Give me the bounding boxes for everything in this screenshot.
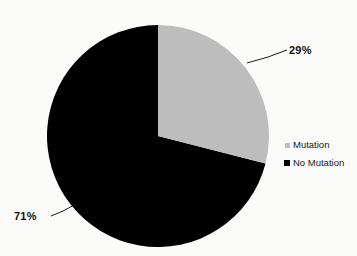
legend-swatch-no-mutation: [284, 160, 290, 166]
legend-item-mutation[interactable]: Mutation: [285, 139, 329, 150]
legend-label-mutation: Mutation: [293, 139, 329, 150]
data-label-29-percent: 29%: [289, 44, 312, 56]
legend-swatch-mutation: [285, 143, 290, 148]
leader-line-71-percent: [51, 204, 76, 216]
pie-chart-canvas: 29% 71% Mutation No Mutation: [0, 0, 357, 256]
pie-chart-figure: 29% 71% Mutation No Mutation: [0, 0, 357, 256]
leader-line-29-percent: [247, 50, 287, 63]
chart-legend: Mutation No Mutation: [284, 139, 344, 168]
data-label-71-percent: 71%: [14, 210, 37, 222]
legend-item-no-mutation[interactable]: No Mutation: [284, 157, 344, 168]
legend-label-no-mutation: No Mutation: [293, 157, 344, 168]
